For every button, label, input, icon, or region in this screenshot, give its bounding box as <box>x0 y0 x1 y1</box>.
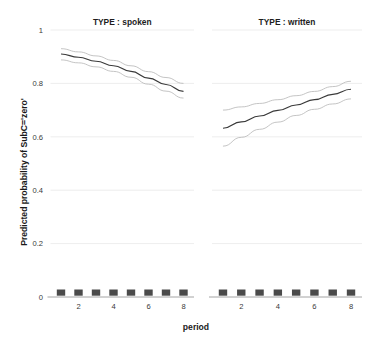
y-axis-tick-label: 0.6 <box>32 133 43 142</box>
chart-background <box>0 0 376 345</box>
y-axis-tick-label: 0.8 <box>32 79 43 88</box>
faceted-line-chart: 00.20.40.60.81 Predicted probability of … <box>0 0 376 345</box>
x-axis-tick-label: 8 <box>349 302 353 311</box>
x-axis-title: period <box>183 322 209 332</box>
rug-mark <box>144 290 152 296</box>
y-axis-tick-label: 0.2 <box>32 239 43 248</box>
rug-mark <box>329 290 337 296</box>
y-axis-tick-label: 1 <box>39 26 43 35</box>
y-axis-tick-label: 0 <box>39 293 43 302</box>
rug-mark <box>255 290 263 296</box>
x-axis-tick-label: 6 <box>146 302 150 311</box>
x-axis-tick-label: 4 <box>111 302 115 311</box>
rug-mark <box>162 290 170 296</box>
rug-mark <box>237 290 245 296</box>
rug-mark <box>127 290 135 296</box>
facet-header-label: TYPE : spoken <box>93 17 152 27</box>
rug-mark <box>347 290 355 296</box>
rug-mark <box>292 290 300 296</box>
facet-header-label: TYPE : written <box>259 17 316 27</box>
x-axis-tick-label: 6 <box>312 302 316 311</box>
rug-mark <box>179 290 187 296</box>
x-axis-tick-label: 4 <box>276 302 280 311</box>
x-axis-tick-label: 2 <box>76 302 80 311</box>
rug-mark <box>74 290 82 296</box>
x-axis-tick-label: 2 <box>239 302 243 311</box>
rug-mark <box>57 290 65 296</box>
chart-container: 00.20.40.60.81 Predicted probability of … <box>0 0 376 345</box>
rug-mark <box>219 290 227 296</box>
y-axis-tick-label: 0.4 <box>32 186 43 195</box>
rug-mark <box>274 290 282 296</box>
y-axis-title: Predicted probability of SubC='zero' <box>19 98 29 246</box>
rug-mark <box>92 290 100 296</box>
rug-mark <box>310 290 318 296</box>
rug-mark <box>109 290 117 296</box>
x-axis-tick-label: 8 <box>181 302 185 311</box>
